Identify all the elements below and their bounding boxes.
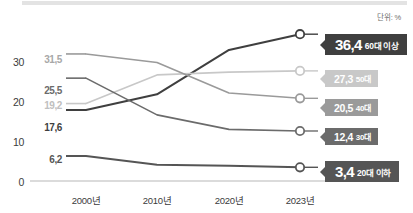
arrow-icon — [320, 40, 325, 50]
end-label-value: 20,5 — [334, 102, 353, 114]
end-label-value: 3,4 — [335, 163, 354, 180]
arrow-icon — [320, 103, 325, 113]
start-value-50s: 19,2 — [36, 100, 62, 111]
end-label-category: 40대 — [356, 102, 371, 113]
arrow-icon — [320, 74, 325, 84]
y-tick-20: 20 — [6, 96, 24, 108]
arrow-icon — [320, 132, 325, 142]
end-label-value: 36,4 — [335, 36, 362, 53]
y-tick-0: 0 — [6, 176, 24, 188]
arrow-icon — [320, 167, 325, 177]
x-tick-2020: 2020년 — [215, 193, 244, 207]
x-tick-2023: 2023년 — [286, 193, 315, 207]
start-value-30s: 25,5 — [36, 85, 62, 96]
end-label-category: 60대 이상 — [365, 39, 399, 51]
end-label-60s-plus: 36,4 60대 이상 — [325, 34, 407, 55]
end-label-20s-under: 3,4 20대 이하 — [325, 161, 399, 182]
end-label-category: 30대 — [356, 131, 371, 142]
end-label-50s: 27,3 50대 — [325, 70, 378, 87]
y-tick-10: 10 — [6, 136, 24, 148]
start-value-60s-plus: 17,6 — [36, 122, 62, 133]
start-value-20s-under: 6,2 — [36, 154, 62, 165]
chart-figure: 단위: % 30 20 10 0 31,5 25,5 19,2 17,6 6,2… — [0, 0, 413, 213]
x-tick-2000: 2000년 — [72, 193, 101, 207]
x-tick-2010: 2010년 — [143, 193, 172, 207]
end-label-40s: 20,5 40대 — [325, 99, 378, 116]
end-label-category: 50대 — [356, 73, 371, 84]
end-label-value: 27,3 — [334, 73, 353, 85]
start-value-40s: 31,5 — [36, 54, 62, 65]
end-label-30s: 12,4 30대 — [325, 128, 378, 145]
end-label-value: 12,4 — [334, 131, 353, 143]
y-tick-30: 30 — [6, 56, 24, 68]
end-label-category: 20대 이하 — [357, 166, 391, 178]
